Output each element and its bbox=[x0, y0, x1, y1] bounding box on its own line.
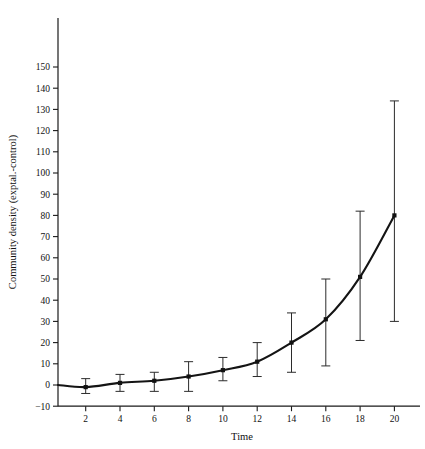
x-axis-tick-label: 2 bbox=[83, 414, 88, 424]
y-axis-title: Community density (exptal.-control) bbox=[7, 134, 19, 289]
y-axis-tick-label: 70 bbox=[41, 232, 51, 242]
x-axis-tick-label: 4 bbox=[118, 414, 123, 424]
y-axis-tick-label: 140 bbox=[36, 84, 51, 94]
x-axis-tick-label: 8 bbox=[186, 414, 191, 424]
data-point-marker bbox=[358, 275, 362, 279]
line-chart-with-error-bars: −100102030405060708090100110120130140150… bbox=[0, 0, 425, 449]
y-axis-tick-label: 0 bbox=[45, 380, 50, 390]
y-axis-tick-label: 110 bbox=[36, 147, 50, 157]
y-axis-tick-label: 80 bbox=[41, 211, 51, 221]
data-point-marker bbox=[84, 385, 88, 389]
y-axis-tick-label: 10 bbox=[41, 359, 51, 369]
data-point-marker bbox=[221, 368, 225, 372]
x-axis-tick-label: 6 bbox=[152, 414, 157, 424]
chart-figure: −100102030405060708090100110120130140150… bbox=[0, 0, 425, 449]
x-axis: 2468101214161820 bbox=[58, 406, 420, 424]
data-point-marker bbox=[152, 379, 156, 383]
y-axis-tick-label: 60 bbox=[41, 253, 51, 263]
x-axis-tick-label: 14 bbox=[287, 414, 297, 424]
y-axis-tick-label: −10 bbox=[35, 402, 50, 412]
data-point-marker bbox=[289, 341, 293, 345]
y-axis-tick-label: 40 bbox=[41, 296, 51, 306]
data-series-line bbox=[58, 215, 394, 387]
y-axis-tick-label: 20 bbox=[41, 338, 51, 348]
data-point-marker bbox=[255, 360, 259, 364]
data-point-markers bbox=[84, 213, 397, 389]
x-axis-tick-label: 18 bbox=[355, 414, 365, 424]
data-point-marker bbox=[118, 381, 122, 385]
x-axis-tick-label: 10 bbox=[218, 414, 228, 424]
x-axis-tick-label: 12 bbox=[252, 414, 262, 424]
y-axis-tick-label: 90 bbox=[41, 190, 51, 200]
y-axis-tick-label: 30 bbox=[41, 317, 51, 327]
x-axis-title: Time bbox=[231, 431, 253, 442]
y-axis-tick-label: 50 bbox=[41, 274, 51, 284]
y-axis: −100102030405060708090100110120130140150 bbox=[35, 18, 58, 412]
data-point-marker bbox=[324, 317, 328, 321]
data-point-marker bbox=[392, 213, 396, 217]
x-axis-tick-label: 20 bbox=[390, 414, 400, 424]
y-axis-tick-label: 100 bbox=[36, 168, 51, 178]
y-axis-tick-label: 130 bbox=[36, 105, 51, 115]
x-axis-tick-label: 16 bbox=[321, 414, 331, 424]
y-axis-tick-label: 150 bbox=[36, 62, 51, 72]
data-point-marker bbox=[187, 374, 191, 378]
error-bars bbox=[81, 101, 399, 394]
y-axis-tick-label: 120 bbox=[36, 126, 51, 136]
